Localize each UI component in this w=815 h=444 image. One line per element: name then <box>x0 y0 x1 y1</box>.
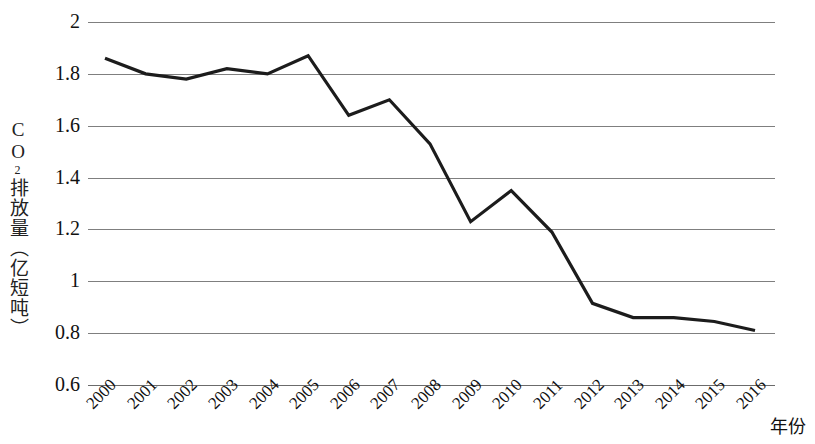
x-axis-title: 年份 <box>770 412 806 438</box>
line-chart: CO2排放量（亿短吨） 21.81.61.41.210.80.6 2000200… <box>0 0 815 444</box>
series-line-co2 <box>88 0 775 400</box>
x-axis-tick-labels: 2000200120022003200420052006200720082009… <box>0 392 815 444</box>
y-tick-label: 1.4 <box>34 167 80 187</box>
y-axis-tick-labels: 21.81.61.41.210.80.6 <box>28 0 80 444</box>
y-tick-label: 0.6 <box>34 374 80 394</box>
y-tick-label: 1.8 <box>34 63 80 83</box>
y-axis-title-suffix: 排放量（亿短吨） <box>8 178 29 338</box>
series-polyline <box>105 56 755 331</box>
y-axis-title-text: CO2排放量（亿短吨） <box>9 119 28 338</box>
y-axis-title-prefix: CO <box>8 119 29 163</box>
y-tick-label: 1.2 <box>34 218 80 238</box>
y-tick-label: 0.8 <box>34 322 80 342</box>
y-tick-label: 2 <box>34 11 80 31</box>
y-axis-title-subscript: 2 <box>11 163 25 178</box>
plot-area <box>88 0 775 400</box>
y-tick-label: 1.6 <box>34 115 80 135</box>
y-tick-label: 1 <box>34 270 80 290</box>
